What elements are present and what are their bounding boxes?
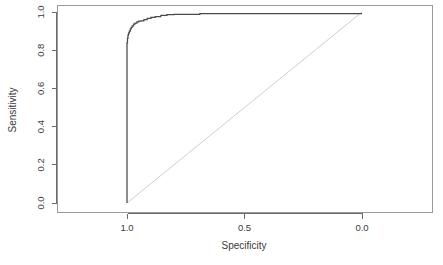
y-axis-tick-label: 0.6 xyxy=(35,82,46,95)
x-axis: 1.00.50.0 Specificity xyxy=(120,214,368,252)
x-axis-tick-label: 1.0 xyxy=(120,222,133,233)
chance-diagonal-line xyxy=(127,12,362,203)
plot-panel-border xyxy=(58,6,433,213)
y-axis-tick-label: 1.0 xyxy=(35,5,46,18)
x-axis-title: Specificity xyxy=(221,240,266,251)
x-axis-tick-label: 0.0 xyxy=(355,222,368,233)
y-axis: 0.00.20.40.60.81.0 Sensitivity xyxy=(7,5,57,209)
y-axis-ticks xyxy=(52,12,57,203)
y-axis-tick-label: 0.8 xyxy=(35,44,46,57)
y-axis-tick-label: 0.4 xyxy=(35,120,46,133)
y-axis-tick-label: 0.2 xyxy=(35,158,46,171)
x-axis-tick-labels: 1.00.50.0 xyxy=(120,222,368,233)
x-axis-tick-label: 0.5 xyxy=(238,222,251,233)
x-axis-ticks xyxy=(127,214,362,219)
y-axis-title: Sensitivity xyxy=(7,87,18,132)
roc-plot-figure: 0.00.20.40.60.81.0 Sensitivity 1.00.50.0… xyxy=(0,0,443,265)
y-axis-tick-label: 0.0 xyxy=(35,196,46,209)
y-axis-tick-labels: 0.00.20.40.60.81.0 xyxy=(35,5,46,209)
roc-plot-svg: 0.00.20.40.60.81.0 Sensitivity 1.00.50.0… xyxy=(0,0,443,265)
